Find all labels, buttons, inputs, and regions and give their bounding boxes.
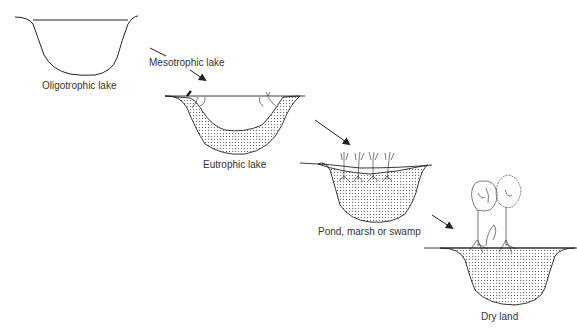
arrow-pond-to-dryland [432,215,452,228]
label-mesotrophic-lake: Mesotrophic lake [149,57,225,68]
label-dry-land: Dry land [481,311,518,322]
eutrophic-lake-basin [165,91,305,154]
trees [470,175,521,253]
dryland-basin [424,175,577,305]
label-oligotrophic-lake: Oligotrophic lake [42,80,116,91]
succession-diagram [0,0,577,333]
arrow-mesotrophic-to-eutrophic [190,70,205,80]
oligotrophic-lake-basin [15,16,138,75]
arrow-oligotrophic-to-mesotrophic [150,48,166,56]
arrow-eutrophic-to-pond [315,120,349,144]
pond-basin [300,152,432,222]
label-pond-marsh-swamp: Pond, marsh or swamp [318,226,421,237]
label-eutrophic-lake: Eutrophic lake [203,159,266,170]
